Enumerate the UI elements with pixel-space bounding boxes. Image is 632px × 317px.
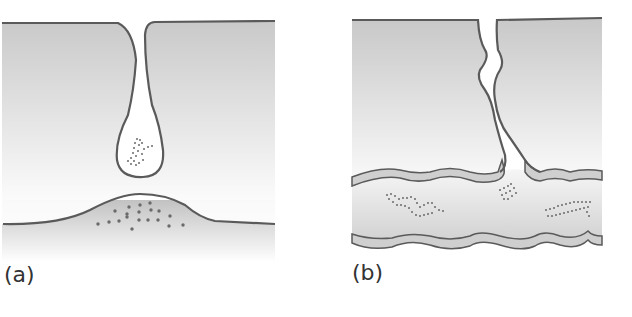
vesicle-particles <box>127 138 153 166</box>
panel-b: (b) <box>330 0 632 317</box>
panel-label-b: (b) <box>352 260 383 285</box>
upper-tissue <box>2 21 275 200</box>
panel-label-a: (a) <box>4 262 35 287</box>
panel-a-diagram <box>0 0 300 317</box>
panel-a: (a) <box>0 0 300 317</box>
